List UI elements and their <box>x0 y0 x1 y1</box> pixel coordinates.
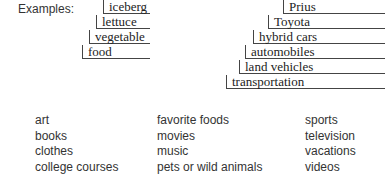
topics-column-1: art books clothes college courses <box>35 113 118 175</box>
stack-step: transportation <box>226 75 385 89</box>
topic-item: art <box>35 113 118 129</box>
stack-step: vegetable <box>89 30 150 44</box>
topics-column-2: favorite foods movies music pets or wild… <box>157 113 262 175</box>
topic-item: clothes <box>35 144 118 160</box>
examples-label: Examples: <box>18 2 74 16</box>
topic-item: favorite foods <box>157 113 262 129</box>
topic-item: movies <box>157 129 262 145</box>
stack-step: land vehicles <box>239 60 385 74</box>
topic-item: sports <box>305 113 356 129</box>
topic-item: vacations <box>305 144 356 160</box>
stack-step: hybrid cars <box>253 30 385 44</box>
stack-step: iceberg <box>103 0 150 14</box>
stack-step: Prius <box>283 0 385 14</box>
stack-step: automobiles <box>245 45 385 59</box>
topic-item: books <box>35 129 118 145</box>
stack-step: lettuce <box>96 15 150 29</box>
topic-item: music <box>157 144 262 160</box>
topic-item: pets or wild animals <box>157 160 262 176</box>
topic-item: videos <box>305 160 356 176</box>
topics-column-3: sports television vacations videos <box>305 113 356 175</box>
stack-step: food <box>82 45 150 59</box>
stack-step: Toyota <box>268 15 385 29</box>
topic-item: college courses <box>35 160 118 176</box>
topic-item: television <box>305 129 356 145</box>
